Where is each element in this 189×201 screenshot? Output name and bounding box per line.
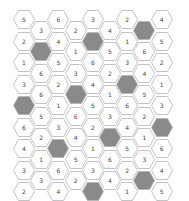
hex-cell-blocked[interactable]	[151, 118, 173, 137]
hex-cell[interactable]: 3	[151, 96, 173, 115]
cell-value	[151, 118, 173, 137]
cell-value: 3	[151, 96, 173, 115]
cell-value: 4	[151, 161, 173, 180]
hex-cell[interactable]: 5	[151, 182, 173, 201]
hex-cell[interactable]: 2	[151, 53, 173, 72]
hex-cell[interactable]: 1	[151, 75, 173, 94]
cell-value: 1	[151, 75, 173, 94]
hex-board: 5213643236652136452136421364523645213452…	[0, 0, 189, 201]
cell-value: 2	[151, 53, 173, 72]
hex-cell[interactable]: 6	[151, 139, 173, 158]
cell-value: 6	[151, 139, 173, 158]
cell-value: 5	[151, 182, 173, 201]
cell-value: 5	[151, 32, 173, 51]
hex-cell[interactable]: 4	[151, 161, 173, 180]
cell-value: 4	[151, 10, 173, 29]
hex-cell[interactable]: 5	[151, 32, 173, 51]
hex-cell[interactable]: 4	[151, 10, 173, 29]
